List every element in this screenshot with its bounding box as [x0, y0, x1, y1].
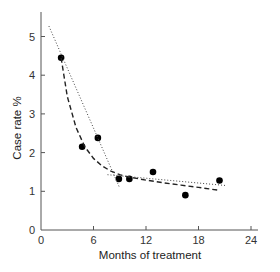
y-tick-label: 2 [29, 147, 35, 159]
x-tick-label: 12 [140, 234, 152, 246]
series-layer [49, 26, 226, 198]
data-point [216, 177, 223, 184]
y-axis-title: Case rate % [11, 96, 23, 159]
x-tick-label: 0 [38, 234, 44, 246]
x-tick-label: 18 [192, 234, 204, 246]
case-rate-chart: 06121824 012345 Months of treatment Case… [0, 0, 280, 272]
y-tick-label: 3 [29, 108, 35, 120]
y-tick-label: 0 [29, 224, 35, 236]
dashed-fit-curve [61, 58, 218, 190]
y-tick-label: 4 [29, 69, 35, 81]
x-axis-title: Months of treatment [99, 249, 202, 261]
x-tick-label: 6 [90, 234, 96, 246]
data-point [95, 135, 102, 142]
y-tick-label: 5 [29, 31, 35, 43]
dotted-trend-line [49, 26, 120, 188]
data-point [150, 169, 157, 176]
data-point [182, 192, 189, 199]
plot-area: 06121824 012345 [29, 12, 258, 246]
x-ticks: 06121824 [38, 226, 257, 246]
y-ticks: 012345 [29, 31, 45, 237]
data-point [116, 176, 123, 183]
y-tick-label: 1 [29, 185, 35, 197]
x-tick-label: 24 [245, 234, 257, 246]
